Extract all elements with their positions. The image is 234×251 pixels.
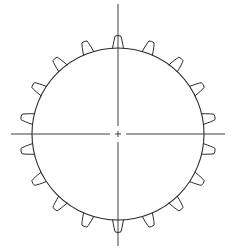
gear-tooth [169,57,183,72]
gear-tooth [53,57,67,72]
gear-tooth [53,196,67,211]
gear-diagram [0,0,234,251]
gear-tooth [169,196,183,211]
center-lines [11,4,225,246]
